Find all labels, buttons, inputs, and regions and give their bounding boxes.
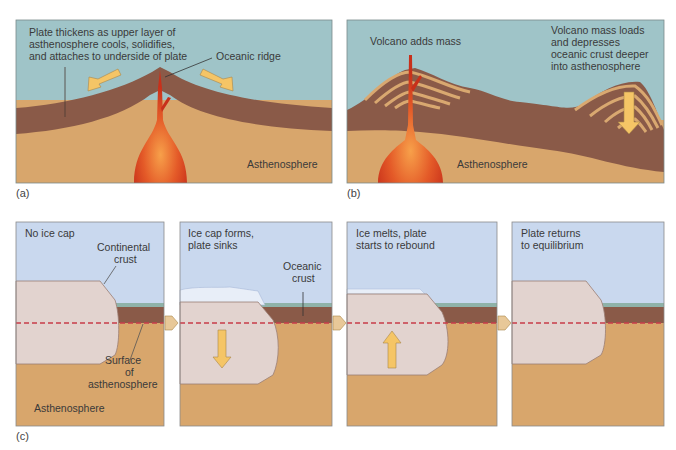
step-1-title: No ice cap [25, 227, 75, 239]
continental-crust-4 [512, 281, 606, 364]
panel-c-step-1: No ice cap Continental crust Surface of … [16, 222, 164, 426]
loads-label-4: into asthenosphere [551, 60, 640, 72]
panel-c-step-4: Plate returns to equilibrium [512, 222, 664, 426]
isostasy-diagram: Plate thickens as upper layer of astheno… [0, 0, 676, 450]
panel-c-step-2: Ice cap forms, plate sinks Oceanic crust [180, 222, 332, 426]
panel-b-volcano-loading: Volcano adds mass Volcano mass loads and… [347, 20, 664, 183]
asthenosphere-label-c: Asthenosphere [34, 402, 105, 414]
step-4-title-2: to equilibrium [521, 239, 584, 251]
step-arrow-1-icon [165, 316, 178, 330]
loads-label-2: and depresses [551, 36, 620, 48]
step-2-title-2: plate sinks [188, 239, 238, 251]
caption-a: (a) [16, 187, 29, 199]
step-arrow-3-icon [498, 316, 511, 330]
panel-c-step-3: Ice melts, plate starts to rebound [347, 222, 497, 426]
step-3-title-1: Ice melts, plate [356, 227, 427, 239]
surface-label-2: of [125, 366, 134, 378]
loads-label-3: oceanic crust deeper [551, 48, 649, 60]
plate-label-2: asthenosphere cools, solidifies, [29, 38, 175, 50]
ridge-label: Oceanic ridge [216, 50, 281, 62]
volcano-label: Volcano adds mass [370, 35, 461, 47]
asthenosphere-label-a: Asthenosphere [247, 158, 318, 170]
surface-label-1: Surface [105, 354, 141, 366]
ice-cap-3 [347, 289, 425, 294]
oceanic-label-2: crust [292, 272, 315, 284]
step-2-title-1: Ice cap forms, [188, 227, 254, 239]
caption-c: (c) [16, 430, 29, 442]
step-arrow-2-icon [333, 316, 346, 330]
asthenosphere-label-b: Asthenosphere [457, 158, 528, 170]
step-4-title-1: Plate returns [521, 227, 581, 239]
continental-label-1: Continental [97, 241, 150, 253]
plate-label-3: and attaches to underside of plate [29, 50, 187, 62]
caption-b: (b) [347, 187, 360, 199]
loads-label-1: Volcano mass loads [551, 24, 644, 36]
panel-a-oceanic-ridge: Plate thickens as upper layer of astheno… [16, 20, 332, 183]
continental-label-2: crust [114, 253, 137, 265]
oceanic-label-1: Oceanic [283, 260, 322, 272]
continental-crust-3 [347, 294, 448, 375]
surface-label-3: asthenosphere [88, 378, 158, 390]
plate-label-1: Plate thickens as upper layer of [29, 26, 176, 38]
step-3-title-2: starts to rebound [356, 239, 435, 251]
continental-crust-2 [180, 302, 278, 384]
